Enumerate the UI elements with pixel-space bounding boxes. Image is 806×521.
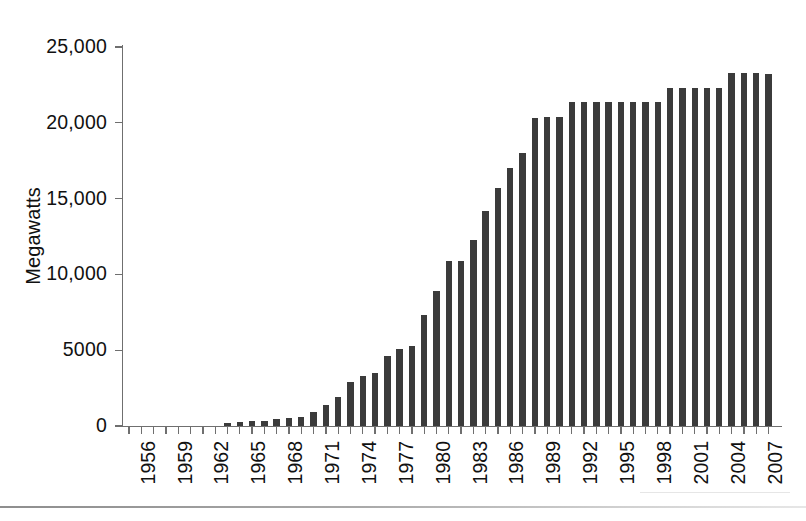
bar-1991 xyxy=(556,117,562,426)
x-tick-label-1971: 1971 xyxy=(321,441,344,484)
bar-1985 xyxy=(482,211,488,426)
bar-1997 xyxy=(630,102,636,426)
x-tick-label-1986: 1986 xyxy=(505,441,528,484)
bar-1996 xyxy=(618,102,624,426)
bar-1992 xyxy=(569,102,575,426)
x-tick-label-1965: 1965 xyxy=(247,441,270,484)
x-tick-label-1983: 1983 xyxy=(469,441,492,484)
bar-1969 xyxy=(286,418,292,426)
bar-series xyxy=(123,47,782,426)
bar-1995 xyxy=(605,102,611,426)
bar-1966 xyxy=(249,421,255,426)
bar-2002 xyxy=(692,88,698,426)
bar-chart-figure: Megawatts 0500010,00015,00020,00025,000 … xyxy=(0,0,806,521)
bar-1994 xyxy=(593,102,599,426)
bar-1971 xyxy=(310,412,316,426)
bar-1987 xyxy=(507,168,513,426)
x-tick-label-1974: 1974 xyxy=(358,441,381,484)
bar-1984 xyxy=(470,240,476,426)
bar-1975 xyxy=(360,376,366,426)
bar-2005 xyxy=(728,73,734,426)
bar-2006 xyxy=(741,73,747,426)
bar-1972 xyxy=(323,405,329,426)
x-tick-label-1968: 1968 xyxy=(284,441,307,484)
x-tick-label-1962: 1962 xyxy=(210,441,233,484)
bar-1999 xyxy=(655,102,661,426)
bar-1973 xyxy=(335,397,341,426)
plot-area xyxy=(123,47,782,426)
bar-1979 xyxy=(409,346,415,426)
x-tick-label-1998: 1998 xyxy=(653,441,676,484)
bar-1965 xyxy=(237,422,243,426)
bar-2001 xyxy=(679,88,685,426)
bar-2008 xyxy=(765,74,771,426)
x-tick-label-2007: 2007 xyxy=(764,441,787,484)
x-tick-label-1977: 1977 xyxy=(395,441,418,484)
x-tick-label-2004: 2004 xyxy=(727,441,750,484)
bar-1990 xyxy=(544,117,550,426)
bar-2004 xyxy=(716,88,722,426)
bar-1982 xyxy=(446,261,452,426)
bar-1993 xyxy=(581,102,587,426)
bar-1998 xyxy=(642,102,648,426)
bar-1980 xyxy=(421,315,427,426)
bar-1988 xyxy=(519,153,525,426)
x-tick-label-1959: 1959 xyxy=(174,441,197,484)
bar-1983 xyxy=(458,261,464,426)
x-tick-label-1956: 1956 xyxy=(137,441,160,484)
bar-1981 xyxy=(433,291,439,426)
bar-1970 xyxy=(298,417,304,426)
bar-1967 xyxy=(261,421,267,426)
bar-1978 xyxy=(396,349,402,426)
x-tick-label-2001: 2001 xyxy=(690,441,713,484)
bar-1968 xyxy=(273,419,279,426)
bar-2007 xyxy=(753,73,759,426)
page-rule-faint xyxy=(640,492,790,493)
bar-1989 xyxy=(532,118,538,426)
bar-1976 xyxy=(372,373,378,426)
x-tick-label-1980: 1980 xyxy=(432,441,455,484)
bar-2000 xyxy=(667,88,673,426)
chart-page: Megawatts 0500010,00015,00020,00025,000 … xyxy=(0,0,806,521)
x-tick-label-1992: 1992 xyxy=(579,441,602,484)
bar-1986 xyxy=(495,188,501,426)
page-divider-rule xyxy=(0,506,806,508)
bar-1974 xyxy=(347,382,353,426)
bar-1977 xyxy=(384,356,390,426)
bar-1964 xyxy=(224,423,230,426)
x-tick-label-1989: 1989 xyxy=(542,441,565,484)
x-tick-label-1995: 1995 xyxy=(616,441,639,484)
bar-2003 xyxy=(704,88,710,426)
